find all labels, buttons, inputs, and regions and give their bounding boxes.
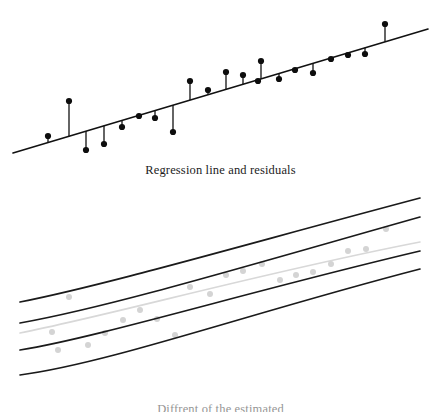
data-point [345, 52, 351, 58]
upper-confidence-band [20, 217, 420, 323]
data-point [119, 124, 125, 130]
data-point [345, 248, 351, 254]
data-point [382, 21, 388, 27]
data-point [363, 246, 369, 252]
data-point [136, 113, 142, 119]
data-point [292, 67, 298, 73]
data-point [205, 87, 211, 93]
confidence-bands-panel [0, 185, 441, 385]
data-point [66, 294, 72, 300]
lower-confidence-band [20, 251, 420, 350]
regression-residuals-plot [0, 0, 441, 160]
data-point [277, 277, 283, 283]
data-point [170, 129, 176, 135]
regression-residuals-group [13, 21, 428, 153]
data-point [207, 291, 213, 297]
data-point [120, 317, 126, 323]
data-point [187, 78, 193, 84]
data-point [276, 76, 282, 82]
data-point [310, 70, 316, 76]
regression-line [13, 29, 428, 153]
data-point [328, 261, 334, 267]
data-point [85, 342, 91, 348]
panel-bottom-caption: Diffrent of the estimated [0, 402, 441, 412]
data-point [240, 72, 246, 78]
data-point [187, 284, 193, 290]
data-point [66, 98, 72, 104]
data-point [258, 58, 264, 64]
data-point [240, 268, 246, 274]
panel-top-caption: Regression line and residuals [0, 163, 441, 178]
data-point [55, 347, 61, 353]
confidence-bands-plot [0, 185, 441, 385]
data-point [310, 269, 316, 275]
data-point [101, 141, 107, 147]
lower-prediction-band [20, 269, 420, 375]
data-point [255, 78, 261, 84]
figure-root: Regression line and residuals Diffrent o… [0, 0, 441, 412]
data-point [293, 272, 299, 278]
data-point [362, 51, 368, 57]
regression-residuals-panel [0, 0, 441, 160]
data-point [137, 307, 143, 313]
confidence-bands-group [20, 198, 420, 375]
data-point [45, 133, 51, 139]
data-point [152, 115, 158, 121]
data-point [49, 329, 55, 335]
data-point [83, 147, 89, 153]
fitted-regression-line [20, 242, 420, 333]
data-point [328, 56, 334, 62]
data-point [223, 69, 229, 75]
